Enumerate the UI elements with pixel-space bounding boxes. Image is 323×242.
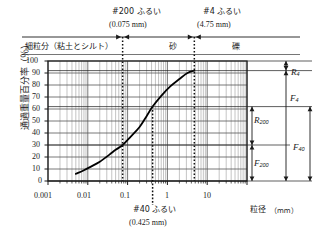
- y-tick-90: 90: [32, 69, 40, 77]
- sieve200-callout-size: (0.075 mm): [109, 21, 147, 29]
- fraction-label-F200: F200: [254, 153, 269, 169]
- sieve4-callout-title: #4 ふるい: [203, 8, 241, 16]
- fraction-subscript-F40: 40: [299, 146, 305, 152]
- fraction-label-F4: F4: [290, 88, 299, 104]
- bracket-R4: [284, 61, 289, 71]
- y-axis-title: 通過重量百分率（％）: [18, 35, 31, 135]
- x-tick-0.1: 0.1: [120, 192, 130, 200]
- y-tick-40: 40: [32, 129, 40, 137]
- fraction-subscript-R4: 4: [297, 71, 300, 77]
- zone-label-gravel: 礫: [232, 43, 240, 51]
- zone-label-fines: 細粒分（粘土とシルト）: [25, 43, 113, 51]
- bracket-F40: [308, 107, 313, 181]
- fraction-subscript-R200: 200: [260, 119, 269, 125]
- x-tick-10: 10: [203, 192, 211, 200]
- fraction-label-F40: F40: [293, 137, 305, 153]
- x-axis-unit: （mm）: [270, 208, 298, 215]
- grid-layer: [48, 61, 247, 181]
- bracket-F4: [284, 71, 289, 181]
- axis-layer: [45, 61, 248, 185]
- x-axis-title: 粒径: [250, 206, 266, 214]
- sieve4-callout-size: (4.75 mm): [197, 21, 231, 29]
- y-tick-60: 60: [32, 105, 40, 113]
- x-tick-0.01: 0.01: [77, 192, 91, 200]
- grain-size-distribution-figure: #200 ふるい (0.075 mm) #4 ふるい (4.75 mm) 細粒分…: [0, 0, 323, 242]
- fraction-subscript-F200: 200: [260, 162, 269, 168]
- y-tick-50: 50: [32, 117, 40, 125]
- curve-layer: [76, 71, 195, 174]
- fraction-subscript-F4: 4: [296, 97, 299, 103]
- y-tick-0: 0: [38, 177, 42, 185]
- sieve200-callout-title: #200 ふるい: [112, 8, 161, 16]
- y-tick-10: 10: [32, 165, 40, 173]
- x-tick-1: 1: [165, 192, 169, 200]
- fraction-label-R4: R4: [291, 62, 300, 78]
- zone-label-sand: 砂: [169, 43, 177, 51]
- x-tick-0.001: 0.001: [34, 192, 52, 200]
- y-tick-20: 20: [32, 153, 40, 161]
- y-tick-30: 30: [32, 141, 40, 149]
- y-tick-100: 100: [26, 57, 38, 65]
- y-tick-70: 70: [32, 93, 40, 101]
- fraction-label-R200: R200: [254, 110, 269, 126]
- sieve40-callout-size: (0.425 mm): [129, 219, 167, 227]
- sieve40-callout-title: #40 ふるい: [133, 206, 176, 214]
- y-tick-80: 80: [32, 81, 40, 89]
